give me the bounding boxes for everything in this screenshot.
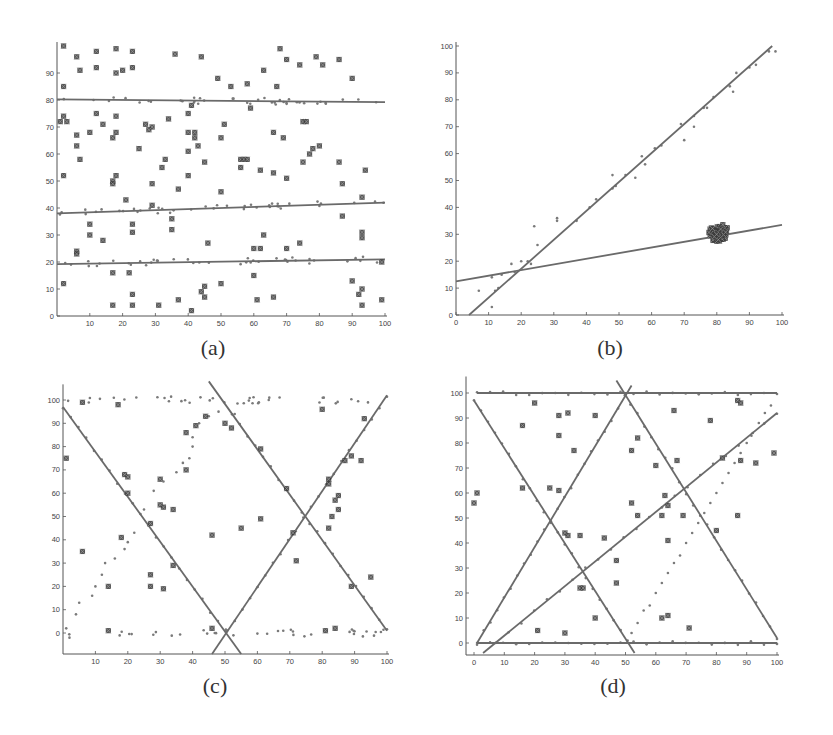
outlier-marker [735, 513, 740, 518]
inlier-point [673, 562, 676, 565]
outlier-marker [665, 613, 670, 618]
fitted-line [616, 381, 777, 639]
outlier-marker [738, 400, 743, 405]
inlier-point [528, 394, 531, 397]
inlier-point [745, 442, 748, 445]
outlier-marker [738, 458, 743, 463]
inlier-point [703, 512, 706, 515]
outlier-marker [614, 580, 619, 585]
fitted-line [474, 401, 635, 654]
outlier-marker [680, 513, 685, 518]
inlier-point [697, 522, 700, 525]
outlier-marker [571, 448, 576, 453]
outlier-marker [556, 433, 561, 438]
outlier-marker [614, 558, 619, 563]
outlier-marker [665, 538, 670, 543]
inlier-point [715, 492, 718, 495]
inlier-point [709, 502, 712, 505]
inlier-point [733, 462, 736, 465]
outlier-marker [662, 493, 667, 498]
inlier-point [770, 404, 773, 407]
scatter-plot-d: 0102030405060708090100010203040506070809… [0, 0, 833, 735]
y-tick-label: 0 [459, 639, 463, 648]
y-tick-label: 90 [455, 414, 463, 423]
subplot-d: 0102030405060708090100010203040506070809… [0, 0, 833, 735]
outlier-marker [474, 490, 479, 495]
inlier-point [727, 472, 730, 475]
outlier-marker [659, 615, 664, 620]
outlier-marker [532, 400, 537, 405]
inlier-point [636, 622, 639, 625]
x-tick-label: 60 [652, 658, 660, 667]
outlier-marker [629, 448, 634, 453]
y-tick-label: 60 [455, 489, 463, 498]
outlier-marker [565, 533, 570, 538]
outlier-marker [635, 435, 640, 440]
outlier-marker [671, 408, 676, 413]
outlier-marker [687, 625, 692, 630]
outlier-marker [665, 503, 670, 508]
outlier-marker [659, 513, 664, 518]
inlier-point [721, 482, 724, 485]
x-tick-label: 80 [712, 658, 720, 667]
outlier-marker [720, 455, 725, 460]
inlier-point [661, 582, 664, 585]
inlier-point [648, 604, 651, 607]
x-tick-label: 0 [472, 658, 476, 667]
inlier-point [630, 632, 633, 635]
y-tick-label: 100 [450, 389, 463, 398]
outlier-marker [593, 615, 598, 620]
outlier-marker [653, 463, 658, 468]
y-tick-label: 70 [455, 464, 463, 473]
y-tick-label: 20 [455, 589, 463, 598]
x-tick-label: 40 [591, 658, 599, 667]
outlier-marker [593, 413, 598, 418]
inlier-point [515, 394, 518, 397]
x-tick-label: 70 [682, 658, 690, 667]
outlier-marker [635, 513, 640, 518]
outlier-marker [580, 585, 585, 590]
outlier-marker [714, 528, 719, 533]
inlier-point [679, 554, 682, 557]
outlier-marker [771, 450, 776, 455]
outlier-marker [674, 458, 679, 463]
inlier-point [739, 452, 742, 455]
x-tick-label: 10 [500, 658, 508, 667]
outlier-marker [535, 628, 540, 633]
inlier-point [737, 394, 740, 397]
inlier-point [642, 609, 645, 612]
outlier-marker [565, 410, 570, 415]
outlier-marker [471, 500, 476, 505]
outlier-marker [520, 485, 525, 490]
inlier-point [758, 422, 761, 425]
y-tick-label: 40 [455, 539, 463, 548]
outlier-marker [708, 418, 713, 423]
x-tick-label: 20 [530, 658, 538, 667]
y-tick-label: 30 [455, 564, 463, 573]
caption-d: (d) [600, 673, 626, 699]
outlier-marker [753, 460, 758, 465]
outlier-marker [602, 535, 607, 540]
outlier-marker [547, 485, 552, 490]
fitted-line [477, 386, 632, 644]
inlier-point [737, 644, 740, 647]
x-tick-label: 50 [621, 658, 629, 667]
outlier-marker [629, 500, 634, 505]
inlier-point [567, 394, 570, 397]
outlier-marker [520, 423, 525, 428]
outlier-marker [556, 488, 561, 493]
inlier-point [764, 412, 767, 415]
y-tick-label: 80 [455, 439, 463, 448]
outlier-marker [577, 533, 582, 538]
x-tick-label: 100 [771, 658, 784, 667]
inlier-point [685, 542, 688, 545]
y-tick-label: 10 [455, 614, 463, 623]
inlier-point [691, 532, 694, 535]
outlier-marker [562, 630, 567, 635]
y-tick-label: 50 [455, 514, 463, 523]
outlier-marker [556, 413, 561, 418]
inlier-point [655, 592, 658, 595]
x-tick-label: 30 [561, 658, 569, 667]
x-tick-label: 90 [743, 658, 751, 667]
inlier-point [667, 572, 670, 575]
